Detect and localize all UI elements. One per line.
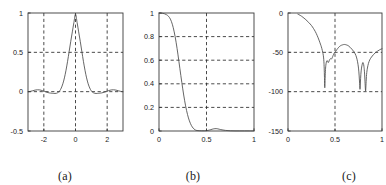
subplot-c: 00.51 -150-100-500 (c) bbox=[256, 0, 386, 185]
svg-text:0.5: 0.5 bbox=[330, 135, 340, 144]
svg-text:-50: -50 bbox=[273, 48, 283, 57]
svg-text:-2: -2 bbox=[41, 135, 47, 144]
plot-c-x-tick-labels: 00.51 bbox=[286, 135, 384, 144]
svg-text:1: 1 bbox=[150, 9, 154, 18]
svg-text:0.5: 0.5 bbox=[202, 135, 212, 144]
plot-c-grid bbox=[288, 13, 382, 131]
plot-b-x-tick-labels: 00.51 bbox=[157, 135, 256, 144]
plot-c-y-tick-labels: -150-100-500 bbox=[269, 9, 283, 136]
svg-text:0: 0 bbox=[286, 135, 290, 144]
subplot-a: -202 -0.500.51 (a) bbox=[0, 0, 130, 185]
plot-a-canvas: -202 -0.500.51 bbox=[0, 0, 130, 160]
figure-container: -202 -0.500.51 (a) 00.51 00.20.40.60.81 … bbox=[0, 0, 386, 185]
svg-text:2: 2 bbox=[105, 135, 109, 144]
plot-b-y-tick-labels: 00.20.40.60.81 bbox=[144, 9, 154, 136]
svg-text:-150: -150 bbox=[269, 127, 283, 136]
svg-text:0.2: 0.2 bbox=[144, 103, 154, 112]
subplot-c-caption: (c) bbox=[284, 169, 386, 184]
svg-text:0.6: 0.6 bbox=[144, 56, 154, 65]
plot-b-canvas: 00.51 00.20.40.60.81 bbox=[128, 0, 258, 160]
plot-b-grid bbox=[159, 13, 254, 131]
svg-text:0: 0 bbox=[74, 135, 78, 144]
svg-text:0.4: 0.4 bbox=[144, 79, 154, 88]
subplot-b-caption: (b) bbox=[128, 169, 258, 184]
plot-a-y-tick-labels: -0.500.51 bbox=[11, 9, 23, 136]
subplot-b: 00.51 00.20.40.60.81 (b) bbox=[128, 0, 258, 185]
subplot-a-caption: (a) bbox=[0, 169, 130, 184]
svg-text:0: 0 bbox=[150, 127, 154, 136]
svg-text:0: 0 bbox=[19, 87, 23, 96]
plot-a-tick-marks bbox=[28, 13, 107, 131]
svg-text:0.5: 0.5 bbox=[13, 48, 23, 57]
plot-a-x-tick-labels: -202 bbox=[41, 135, 110, 144]
svg-text:-0.5: -0.5 bbox=[11, 127, 23, 136]
svg-text:0: 0 bbox=[279, 9, 283, 18]
svg-text:0.8: 0.8 bbox=[144, 32, 154, 41]
svg-text:1: 1 bbox=[19, 9, 23, 18]
svg-text:0: 0 bbox=[157, 135, 161, 144]
svg-text:-100: -100 bbox=[269, 87, 283, 96]
plot-a-grid bbox=[28, 13, 123, 131]
plot-c-canvas: 00.51 -150-100-500 bbox=[256, 0, 386, 160]
svg-text:1: 1 bbox=[380, 135, 384, 144]
